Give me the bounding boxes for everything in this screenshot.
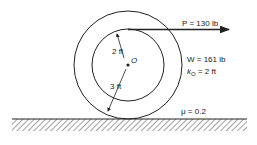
force-label: P = 130 lb <box>182 19 219 28</box>
center-label: O <box>131 56 137 65</box>
spool-diagram: P = 130 lb 2 ft O 3 ft W = 161 lb kO = 2… <box>0 0 257 145</box>
center-point <box>126 63 129 66</box>
weight-label: W = 161 lb <box>187 55 226 64</box>
inner-radius-label: 2 ft <box>112 47 124 56</box>
ground <box>12 119 247 131</box>
ground-hatching <box>12 119 247 131</box>
outer-radius-label: 3 ft <box>110 82 122 91</box>
radius-of-gyration-label: kO = 2 ft <box>187 67 217 77</box>
friction-label: μ = 0.2 <box>181 107 206 116</box>
